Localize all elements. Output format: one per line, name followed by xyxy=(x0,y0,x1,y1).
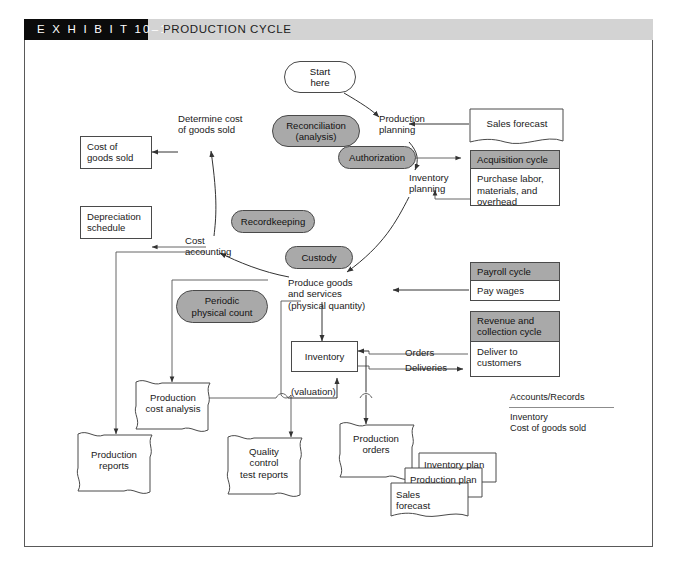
cycle-title-payroll: Payroll cycle xyxy=(471,263,559,281)
node-recordkeeping[interactable]: Recordkeeping xyxy=(231,210,315,233)
doc-production-orders[interactable]: Production orders xyxy=(340,433,412,456)
box-depreciation-schedule[interactable]: Depreciation schedule xyxy=(80,206,152,239)
cycle-body-revenue: Deliver to customers xyxy=(471,342,559,373)
box-inventory[interactable]: Inventory xyxy=(291,341,358,372)
doc-quality-control-test-reports[interactable]: Quality control test reports xyxy=(228,446,300,480)
cycle-box-payroll[interactable]: Payroll cycle Pay wages xyxy=(470,262,560,301)
cycle-body-acquisition: Purchase labor, materials, and overhead xyxy=(471,169,559,211)
cycle-body-payroll: Pay wages xyxy=(471,281,559,300)
accounts-records-items: Inventory Cost of goods sold xyxy=(510,412,586,435)
label-cost-accounting: Cost accounting xyxy=(185,235,231,258)
label-determine-cost-of-goods-sold: Determine cost of goods sold xyxy=(178,113,243,136)
running-head xyxy=(205,0,625,9)
node-custody[interactable]: Custody xyxy=(285,246,353,269)
accounts-records-rule xyxy=(509,407,614,408)
accounts-records-title: Accounts/Records xyxy=(510,392,585,402)
exhibit-number-label: E X H I B I T 10–1 xyxy=(37,23,169,35)
exhibit-page: E X H I B I T 10–1 PRODUCTION CYCLE xyxy=(0,0,675,568)
cycle-box-acquisition[interactable]: Acquisition cycle Purchase labor, materi… xyxy=(470,150,560,206)
node-authorization[interactable]: Authorization xyxy=(338,146,416,169)
label-inventory-planning: Inventory planning xyxy=(409,172,448,195)
exhibit-title: PRODUCTION CYCLE xyxy=(163,23,291,35)
label-deliveries: Deliveries xyxy=(405,362,447,373)
card-sales-forecast[interactable]: Sales forecast xyxy=(396,489,430,512)
doc-production-cost-analysis[interactable]: Production cost analysis xyxy=(136,392,210,415)
node-start-here[interactable]: Start here xyxy=(284,61,356,93)
exhibit-header-bar: E X H I B I T 10–1 PRODUCTION CYCLE xyxy=(24,19,653,40)
node-periodic-physical-count[interactable]: Periodic physical count xyxy=(176,290,268,323)
label-production-planning: Production planning xyxy=(379,113,425,136)
cycle-box-revenue[interactable]: Revenue and collection cycle Deliver to … xyxy=(470,311,560,377)
card-inventory-plan[interactable]: Inventory plan xyxy=(424,459,484,470)
cycle-title-acquisition: Acquisition cycle xyxy=(471,151,559,169)
label-produce-goods-and-services: Produce goods and services (physical qua… xyxy=(288,277,365,311)
card-production-plan[interactable]: Production plan xyxy=(410,474,477,485)
doc-production-reports[interactable]: Production reports xyxy=(78,449,150,472)
cycle-title-revenue: Revenue and collection cycle xyxy=(471,312,559,342)
box-cost-of-goods-sold[interactable]: Cost of goods sold xyxy=(80,136,152,169)
label-orders: Orders xyxy=(405,347,434,358)
node-reconciliation[interactable]: Reconciliation (analysis) xyxy=(272,115,360,147)
doc-sales-forecast[interactable]: Sales forecast xyxy=(478,118,556,129)
label-valuation: (valuation) xyxy=(291,386,336,397)
